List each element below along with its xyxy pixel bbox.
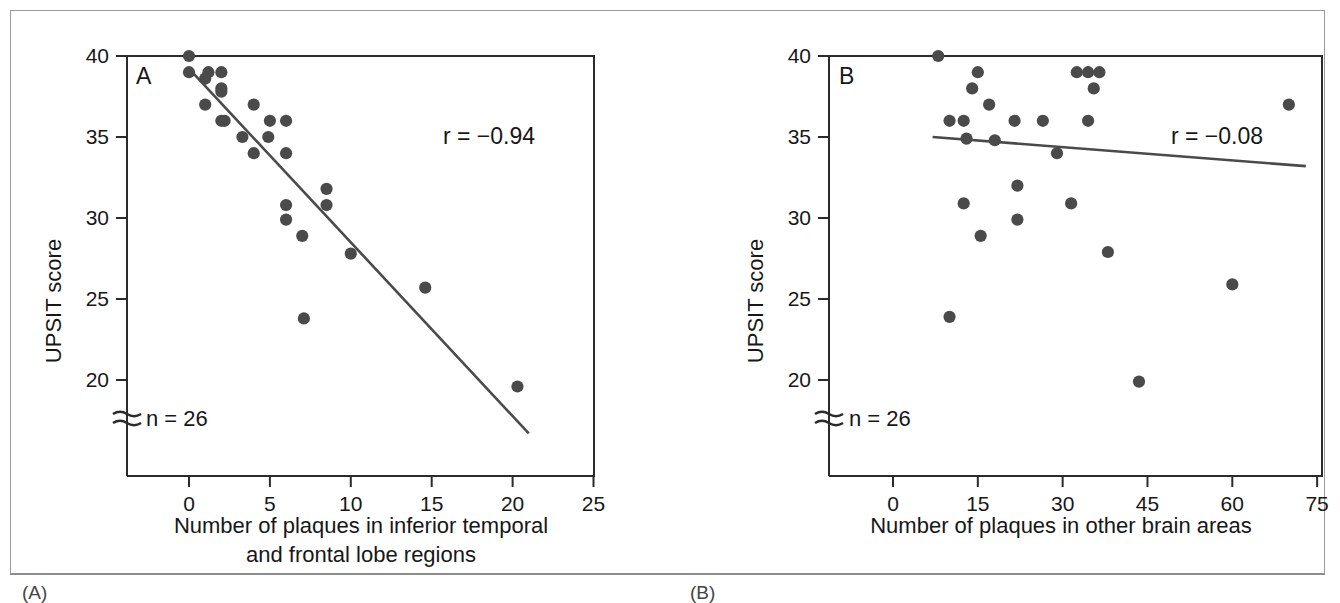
data-point — [262, 131, 274, 143]
y-axis-tick-label: 20 — [57, 368, 109, 392]
data-point — [345, 248, 357, 260]
data-point — [1008, 115, 1020, 127]
data-point — [1065, 197, 1077, 209]
data-point — [943, 311, 955, 323]
y-axis-tick-label: 40 — [759, 44, 811, 68]
data-point — [932, 50, 944, 62]
panel-a-correlation-label: r = −0.94 — [443, 123, 535, 150]
data-point — [1051, 147, 1063, 159]
data-point — [1102, 246, 1114, 258]
y-axis-tick-label: 25 — [57, 287, 109, 311]
data-point — [248, 99, 260, 111]
data-point — [1283, 99, 1295, 111]
x-axis-tick-label: 0 — [183, 492, 195, 516]
data-point — [989, 134, 1001, 146]
data-point — [183, 50, 195, 62]
y-axis-tick-label: 20 — [759, 368, 811, 392]
x-axis-tick-label: 30 — [1051, 492, 1074, 516]
data-point — [183, 66, 195, 78]
caption-label-b: (B) — [690, 582, 715, 603]
data-point — [298, 312, 310, 324]
x-axis-tick-label: 15 — [966, 492, 989, 516]
data-point — [960, 133, 972, 145]
data-point — [1133, 376, 1145, 388]
data-point — [958, 115, 970, 127]
data-point — [1011, 214, 1023, 226]
data-point — [199, 99, 211, 111]
data-point — [943, 115, 955, 127]
panel-b-sample-size-label: n = 26 — [849, 406, 911, 432]
panel-b: B r = −0.08 n = 26 UPSIT score Number of… — [671, 11, 1331, 576]
data-point — [1226, 278, 1238, 290]
data-point — [280, 199, 292, 211]
x-axis-tick-label: 10 — [339, 492, 362, 516]
data-point — [296, 230, 308, 242]
data-point — [1088, 82, 1100, 94]
data-point — [248, 147, 260, 159]
x-axis-tick-label: 45 — [1136, 492, 1159, 516]
data-point — [320, 183, 332, 195]
data-point — [215, 66, 227, 78]
y-axis-tick-label: 30 — [57, 206, 109, 230]
data-point — [215, 86, 227, 98]
x-axis-tick-label: 75 — [1305, 492, 1328, 516]
x-axis-tick-label: 5 — [264, 492, 276, 516]
data-point — [511, 380, 523, 392]
panel-a-sample-size-label: n = 26 — [146, 406, 208, 432]
y-axis-tick-label: 30 — [759, 206, 811, 230]
data-point — [1082, 115, 1094, 127]
data-point — [280, 147, 292, 159]
data-point — [280, 115, 292, 127]
panel-a-x-axis-title: Number of plaques in inferior temporal a… — [91, 511, 631, 570]
data-point — [1037, 115, 1049, 127]
figure-outer-frame: A r = −0.94 n = 26 UPSIT score Number of… — [10, 10, 1325, 575]
data-point — [1011, 180, 1023, 192]
x-axis-tick-label: 0 — [887, 492, 899, 516]
panel-a-letter: A — [136, 63, 151, 90]
data-point — [264, 115, 276, 127]
data-point — [972, 66, 984, 78]
y-axis-tick-label: 35 — [57, 125, 109, 149]
data-point — [975, 230, 987, 242]
data-point — [320, 199, 332, 211]
data-point — [966, 82, 978, 94]
data-point — [236, 131, 248, 143]
data-point — [280, 214, 292, 226]
y-axis-tick-label: 35 — [759, 125, 811, 149]
data-point — [958, 197, 970, 209]
data-point — [1093, 66, 1105, 78]
data-point — [983, 99, 995, 111]
panel-a: A r = −0.94 n = 26 UPSIT score Number of… — [11, 11, 671, 576]
data-point — [202, 66, 214, 78]
x-axis-tick-label: 60 — [1221, 492, 1244, 516]
figure-root: A r = −0.94 n = 26 UPSIT score Number of… — [0, 0, 1340, 603]
data-point — [218, 115, 230, 127]
data-point — [1082, 66, 1094, 78]
y-axis-tick-label: 40 — [57, 44, 109, 68]
data-point — [419, 282, 431, 294]
panel-b-correlation-label: r = −0.08 — [1171, 123, 1263, 150]
x-axis-tick-label: 15 — [420, 492, 443, 516]
y-axis-tick-label: 25 — [759, 287, 811, 311]
caption-label-a: (A) — [22, 582, 47, 603]
x-axis-tick-label: 25 — [582, 492, 605, 516]
x-axis-tick-label: 20 — [501, 492, 524, 516]
data-point — [1071, 66, 1083, 78]
panel-b-letter: B — [839, 63, 854, 90]
